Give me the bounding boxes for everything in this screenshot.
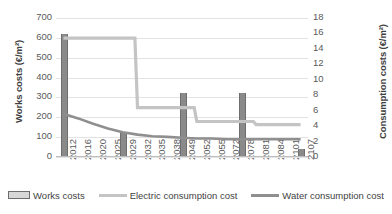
plot-area: [56, 18, 308, 157]
y-axis-left-tick: 600: [24, 31, 52, 42]
y-axis-right-tick: 6: [313, 104, 341, 115]
legend-line-swatch: [99, 194, 127, 197]
y-axis-right-tick: 4: [313, 119, 341, 130]
legend-item[interactable]: Electric consumption cost: [99, 190, 238, 201]
y-axis-right-tick: 14: [313, 42, 341, 53]
legend-item[interactable]: Works costs: [8, 190, 85, 201]
legend-line-swatch: [251, 194, 279, 197]
chart-legend: Works costsElectric consumption costWate…: [0, 186, 392, 204]
chart-figure: Works costs (€/m²) Consumption costs (€/…: [0, 0, 392, 214]
y-axis-right-tick: 0: [313, 150, 341, 161]
x-axis-line: [56, 156, 308, 157]
y-axis-right-tick: 8: [313, 88, 341, 99]
gridline: [56, 157, 308, 158]
legend-item[interactable]: Water consumption cost: [251, 190, 384, 201]
y-axis-left-tick: 300: [24, 90, 52, 101]
y-axis-left-tick: 200: [24, 110, 52, 121]
electric-consumption-line: [63, 38, 300, 125]
y-axis-right-tick: 16: [313, 26, 341, 37]
legend-label: Works costs: [33, 190, 85, 201]
y-axis-right-tick: 18: [313, 11, 341, 22]
y-axis-left-tick: 0: [24, 150, 52, 161]
y-axis-left-tick: 100: [24, 130, 52, 141]
y-axis-left-tick: 400: [24, 71, 52, 82]
y-axis-right-tick: 12: [313, 57, 341, 68]
y-axis-right-tick: 10: [313, 73, 341, 84]
y-axis-left-title: Works costs (€/m²): [13, 17, 24, 147]
legend-label: Water consumption cost: [282, 190, 384, 201]
water-consumption-line: [63, 114, 300, 139]
y-axis-right-tick: 2: [313, 135, 341, 146]
consumption-lines: [56, 18, 308, 157]
y-axis-left-tick: 500: [24, 51, 52, 62]
y-axis-right-title: Consumption costs (€/m²): [377, 7, 388, 157]
legend-bar-swatch: [8, 191, 30, 199]
legend-label: Electric consumption cost: [130, 190, 238, 201]
y-axis-left-tick: 700: [24, 11, 52, 22]
